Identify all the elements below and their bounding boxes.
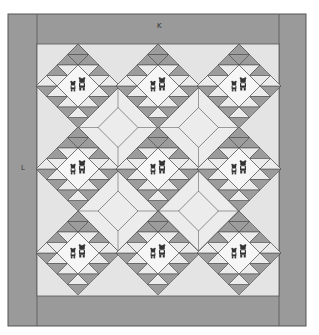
quilt-diagram [0,0,319,335]
border-label-k: K [157,22,162,30]
border-label-l: L [21,164,25,172]
block-grid [36,44,281,295]
